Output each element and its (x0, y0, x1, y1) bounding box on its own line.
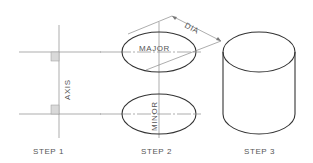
minor-label: MINOR (150, 101, 159, 131)
construction-line-a (128, 16, 172, 34)
major-label: MAJOR (139, 44, 170, 53)
dia-label: DIA (183, 21, 201, 36)
step-1-label: STEP 1 (33, 147, 64, 156)
step-3-figure: STEP 3 (223, 32, 295, 156)
cylinder-top-ellipse (223, 32, 295, 72)
step-2-label: STEP 2 (141, 147, 172, 156)
cylinder-bottom-arc (223, 114, 295, 134)
right-angle-marker-top (51, 52, 59, 61)
cylinder-construction-diagram: AXIS STEP 1 DIA MAJOR MINOR STEP 2 STEP … (0, 0, 313, 163)
right-angle-marker-bottom (51, 105, 59, 114)
step-1-figure: AXIS STEP 1 (19, 25, 101, 156)
axis-label: AXIS (63, 79, 72, 100)
step-2-figure: DIA MAJOR MINOR STEP 2 (100, 16, 221, 156)
dimension-arrow-start (172, 16, 177, 20)
step-3-label: STEP 3 (244, 147, 275, 156)
dimension-arrow-end (216, 37, 221, 41)
